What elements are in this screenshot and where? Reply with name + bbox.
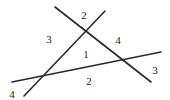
region-label-upper-left: 3	[46, 33, 52, 45]
region-label-top: 2	[81, 9, 87, 21]
region-label-bottom: 2	[86, 75, 92, 87]
line-b	[24, 11, 105, 96]
region-label-bottom-left: 4	[9, 88, 15, 100]
three-lines-diagram: 2 3 4 1 3 2 4	[0, 0, 170, 100]
region-label-upper-right: 4	[115, 34, 121, 46]
region-label-right: 3	[152, 64, 158, 76]
region-label-center-triangle: 1	[83, 48, 89, 60]
